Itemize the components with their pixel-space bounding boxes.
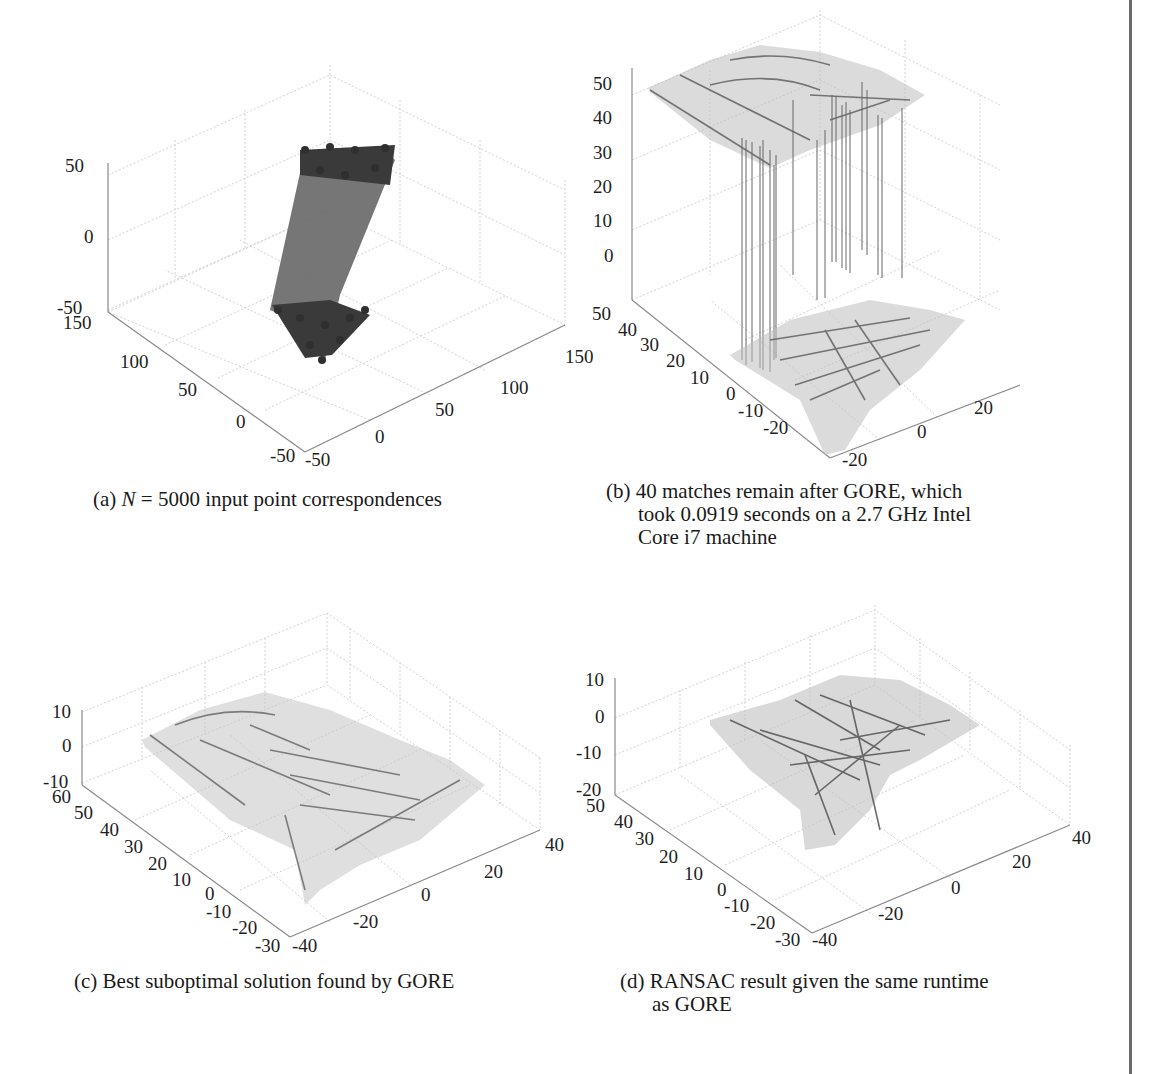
y-tick: 50	[586, 796, 605, 815]
caption-line: 40 matches remain after GORE, which	[636, 479, 963, 503]
x-tick: 40	[545, 835, 564, 854]
caption-label: (a)	[93, 487, 116, 511]
y-tick: 0	[236, 412, 246, 431]
z-tick: 50	[593, 74, 612, 93]
y-tick: 30	[640, 335, 659, 354]
y-tick: 40	[614, 812, 633, 831]
y-tick: 10	[684, 864, 703, 883]
registered-point-cloud	[142, 692, 485, 905]
y-tick: -10	[724, 896, 749, 915]
x-tick: -20	[353, 912, 378, 931]
y-tick: -20	[232, 918, 257, 937]
z-tick: 0	[62, 736, 72, 755]
caption-a: (a) N = 5000 input point correspondences	[93, 488, 442, 511]
x-tick: 0	[375, 427, 385, 446]
z-tick: 30	[593, 143, 612, 162]
x-tick: -20	[842, 450, 867, 469]
z-tick: 0	[595, 707, 605, 726]
y-tick: 60	[52, 787, 71, 806]
z-tick: 50	[65, 156, 84, 175]
subfigure-c: 10 0 -10 60 50 40 30 20 10 0 -10 -20 -30…	[0, 600, 580, 1020]
caption-line: Core i7 machine	[606, 526, 1026, 549]
y-tick: -50	[270, 446, 295, 465]
x-tick: 50	[435, 400, 454, 419]
x-tick: 40	[1072, 828, 1091, 847]
y-tick: 10	[172, 870, 191, 889]
x-tick: 20	[974, 398, 993, 417]
x-tick: -40	[812, 930, 837, 949]
caption-label: (d)	[620, 969, 645, 993]
y-tick: 20	[148, 854, 167, 873]
caption-d: (d) RANSAC result given the same runtime…	[620, 970, 1060, 1016]
caption-label: (c)	[74, 969, 97, 993]
subfigure-a: 50 0 -50 150 100 50 0 -50 -50 0 50 100 1…	[0, 0, 580, 540]
caption-text: Best suboptimal solution found by GORE	[103, 969, 455, 993]
x-tick: 0	[421, 885, 431, 904]
caption-math: N	[122, 487, 136, 511]
z-tick: 20	[593, 177, 612, 196]
caption-label: (b)	[606, 479, 631, 503]
caption-b: (b) 40 matches remain after GORE, which …	[606, 480, 1026, 549]
y-tick: -30	[255, 936, 280, 955]
caption-text: = 5000 input point correspondences	[136, 487, 442, 511]
correspondence-lines	[270, 143, 395, 364]
caption-c: (c) Best suboptimal solution found by GO…	[74, 970, 454, 993]
y-tick: 50	[178, 380, 197, 399]
x-tick: 100	[500, 378, 529, 397]
z-tick: -10	[576, 743, 601, 762]
y-tick: -10	[738, 401, 763, 420]
x-tick: 0	[917, 422, 927, 441]
x-tick: -40	[292, 936, 317, 955]
subfigure-b: 50 40 30 20 10 0 50 40 30 20 10 0 -10 -2…	[580, 0, 1130, 600]
caption-line: as GORE	[620, 993, 1060, 1016]
ransac-point-cloud	[710, 675, 980, 850]
z-tick: 10	[52, 702, 71, 721]
y-tick: 20	[659, 847, 678, 866]
y-tick: -20	[750, 913, 775, 932]
y-tick: 50	[74, 803, 93, 822]
y-tick: 20	[666, 351, 685, 370]
caption-line: took 0.0919 seconds on a 2.7 GHz Intel	[606, 503, 1026, 526]
y-tick: -20	[763, 418, 788, 437]
y-tick: 30	[124, 837, 143, 856]
y-tick: 10	[690, 368, 709, 387]
y-tick: 30	[635, 829, 654, 848]
z-tick: 0	[84, 227, 94, 246]
y-tick: 0	[726, 384, 736, 403]
x-tick: -50	[305, 450, 330, 469]
x-tick: -20	[878, 904, 903, 923]
y-tick: -10	[206, 902, 231, 921]
z-tick: 10	[585, 670, 604, 689]
y-tick: 150	[63, 313, 92, 332]
subfigure-d: 10 0 -10 -20 50 40 30 20 10 0 -10 -20 -3…	[580, 600, 1130, 1040]
z-tick: 0	[604, 246, 614, 265]
y-tick: 50	[592, 304, 611, 323]
x-tick: 20	[1012, 852, 1031, 871]
caption-line: RANSAC result given the same runtime	[650, 969, 989, 993]
y-tick: 40	[100, 820, 119, 839]
z-tick: 40	[593, 108, 612, 127]
x-tick: 20	[484, 862, 503, 881]
z-tick: 10	[593, 211, 612, 230]
x-tick: 0	[951, 878, 961, 897]
y-tick: -30	[775, 930, 800, 949]
y-tick: 40	[618, 320, 637, 339]
y-tick: 100	[120, 352, 149, 371]
upper-point-cloud	[648, 45, 925, 168]
